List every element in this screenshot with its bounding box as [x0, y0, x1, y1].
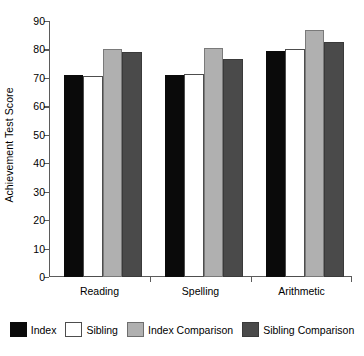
- bar-index-comparison-arithmetic: [305, 30, 325, 277]
- y-tick-label: 10: [33, 243, 45, 255]
- category-label-arithmetic: Arithmetic: [278, 285, 325, 297]
- plot-area: 0102030405060708090: [49, 21, 352, 277]
- bar-index-spelling: [165, 75, 185, 277]
- legend-swatch-index: [10, 322, 27, 337]
- category-label-reading: Reading: [80, 285, 119, 297]
- legend-swatch-sibling: [65, 322, 82, 337]
- bar-index-arithmetic: [266, 51, 286, 277]
- x-tick-mark: [251, 277, 252, 282]
- y-tick-label: 30: [33, 186, 45, 198]
- legend-label-sibling: Sibling: [86, 324, 118, 336]
- y-tick-label: 60: [33, 100, 45, 112]
- bar-sibling-comparison-reading: [122, 52, 142, 277]
- y-tick-label: 70: [33, 72, 45, 84]
- bar-index-comparison-spelling: [204, 48, 224, 277]
- x-tick-mark: [351, 277, 352, 282]
- y-tick-label: 80: [33, 43, 45, 55]
- y-axis-title: Achievement Test Score: [0, 0, 18, 290]
- y-tick-label: 40: [33, 157, 45, 169]
- chart-legend: IndexSiblingIndex ComparisonSibling Comp…: [0, 322, 364, 337]
- y-tick-label: 90: [33, 15, 45, 27]
- y-axis-line: [49, 21, 50, 277]
- y-tick-label: 0: [39, 271, 45, 283]
- bar-index-reading: [64, 75, 84, 277]
- bar-sibling-comparison-arithmetic: [324, 42, 344, 277]
- bar-index-comparison-reading: [103, 49, 123, 277]
- legend-label-index: Index: [31, 324, 57, 336]
- x-tick-mark: [150, 277, 151, 282]
- y-axis-title-label: Achievement Test Score: [3, 87, 15, 202]
- bar-sibling-spelling: [184, 74, 204, 277]
- legend-item-sibling-comparison: Sibling Comparison: [242, 322, 354, 337]
- legend-swatch-index-comparison: [127, 322, 144, 337]
- legend-label-sibling-comparison: Sibling Comparison: [263, 324, 354, 336]
- bar-sibling-comparison-spelling: [223, 59, 243, 277]
- legend-swatch-sibling-comparison: [242, 322, 259, 337]
- y-tick-label: 20: [33, 214, 45, 226]
- achievement-test-score-bar-chart: Achievement Test Score 01020304050607080…: [0, 0, 364, 356]
- legend-item-index: Index: [10, 322, 57, 337]
- category-label-spelling: Spelling: [182, 285, 219, 297]
- bar-sibling-arithmetic: [285, 49, 305, 277]
- y-tick-label: 50: [33, 129, 45, 141]
- legend-item-index-comparison: Index Comparison: [127, 322, 233, 337]
- legend-item-sibling: Sibling: [65, 322, 118, 337]
- legend-label-index-comparison: Index Comparison: [148, 324, 233, 336]
- bar-sibling-reading: [83, 76, 103, 277]
